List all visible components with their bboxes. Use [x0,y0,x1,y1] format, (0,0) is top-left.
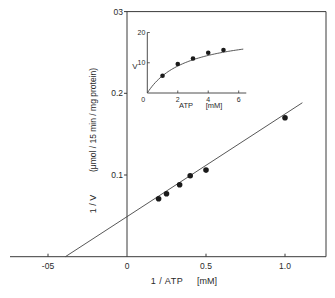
inset-fit-curve [147,49,243,93]
x-axis-unit: [mM] [197,276,217,286]
data-point [203,167,209,173]
y-tick-label: 0.1 [111,170,123,180]
inset-x-axis-unit: [mM] [206,101,223,110]
inset-data-point [175,62,180,67]
x-tick-label: 0.5 [200,261,212,271]
y-tick-label: 03 [114,7,124,17]
inset-data-point [191,56,196,61]
x-tick-label: 0 [125,261,130,271]
inset-x-axis-title: ATP [179,101,193,110]
fit-line [65,103,302,257]
main-plot [65,103,302,257]
main-axes: -0500.51.00.10.203 [10,7,326,271]
inset-data-point [160,73,165,78]
data-point [177,182,183,188]
inset-x-tick-label: 0 [141,96,145,103]
inset-x-tick-label: 6 [237,96,241,103]
inset-y-tick-label: 20 [138,29,146,36]
inset-y-axis-title: V [132,62,138,71]
x-tick-label: 1.0 [279,261,291,271]
inset-chart: 02461020 [138,29,247,103]
data-point [156,196,162,202]
y-tick-label: 0.2 [111,88,123,98]
inset-y-tick-label: 10 [138,59,146,66]
data-point [164,191,170,197]
x-axis-title: 1 / ATP [151,276,183,286]
y-axis-title: 1 / V [88,195,98,214]
x-tick-label: -05 [42,261,55,271]
data-point [282,115,288,121]
data-point [187,173,193,179]
inset-data-point [206,50,211,55]
y-axis-unit: (μmol / 15 min / mg protein) [88,68,98,172]
lineweaver-burk-chart: -0500.51.00.10.203 02461020 1 / ATP [mM]… [0,0,335,298]
inset-data-point [221,48,226,53]
